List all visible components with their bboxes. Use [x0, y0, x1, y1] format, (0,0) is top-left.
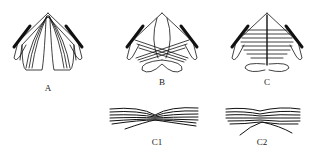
detail-c2-label: C2: [257, 138, 268, 147]
panel-c-drawing: [232, 13, 302, 72]
panel-b-drawing: [127, 13, 197, 72]
panel-a-drawing: [14, 13, 82, 70]
detail-c1-label: C1: [152, 138, 163, 147]
detail-c2-drawing: [226, 108, 300, 135]
panel-a-label: A: [45, 84, 52, 93]
detail-c1-drawing: [110, 108, 198, 129]
panel-c-label: C: [264, 78, 270, 87]
panel-b-label: B: [159, 78, 165, 87]
diagram-canvas: [0, 0, 315, 152]
